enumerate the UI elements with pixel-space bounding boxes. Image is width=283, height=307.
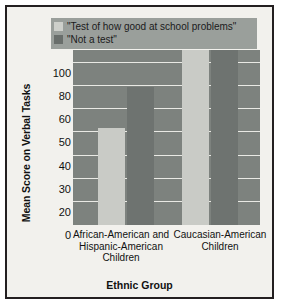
x-axis-category-labels: African-American andHispanic-AmericanChi…: [67, 229, 267, 275]
legend-item-0: "Test of how good at school problems": [54, 20, 254, 33]
chart-legend: "Test of how good at school problems" "N…: [51, 18, 257, 49]
y-tick-label-20: 20: [29, 206, 71, 218]
x-axis-title: Ethnic Group: [7, 279, 272, 291]
category-label-0: African-American andHispanic-AmericanChi…: [67, 229, 175, 264]
bar-group-1-series-0: [182, 50, 209, 225]
bar-group-1-series-1: [211, 50, 238, 225]
y-tick-label-60: 60: [29, 113, 71, 125]
legend-swatch-dark: [54, 35, 63, 44]
category-label-0-line-1: Hispanic-American: [67, 241, 175, 253]
legend-label-1: "Not a test": [67, 34, 117, 46]
category-label-1-line-0: Caucasian-American: [173, 229, 267, 241]
y-tick-label-0: 0: [29, 229, 71, 241]
category-label-0-line-2: Children: [67, 252, 175, 264]
category-label-0-line-0: African-American and: [67, 229, 175, 241]
category-label-1-line-1: Children: [173, 241, 267, 253]
y-axis-tick-labels: 0203040506080100: [29, 55, 71, 225]
y-tick-label-100: 100: [29, 67, 71, 79]
legend-item-1: "Not a test": [54, 33, 254, 46]
bar-group-0-series-1: [127, 87, 154, 225]
figure-frame: "Test of how good at school problems" "N…: [5, 5, 274, 299]
y-tick-label-40: 40: [29, 160, 71, 172]
plot-area: [73, 50, 260, 225]
legend-swatch-light: [54, 22, 63, 31]
bar-group-0-series-0: [98, 128, 125, 225]
category-label-1: Caucasian-AmericanChildren: [173, 229, 267, 252]
y-tick-label-50: 50: [29, 136, 71, 148]
y-tick-label-30: 30: [29, 183, 71, 195]
y-tick-label-80: 80: [29, 90, 71, 102]
legend-label-0: "Test of how good at school problems": [67, 21, 236, 33]
